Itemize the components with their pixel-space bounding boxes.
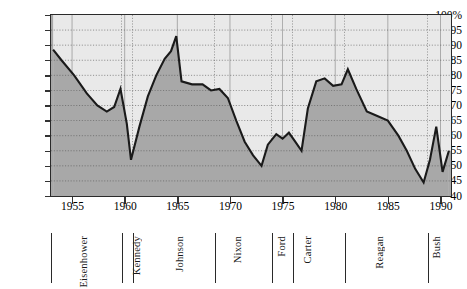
president-label: Reagan bbox=[374, 236, 385, 269]
president-separator bbox=[428, 233, 429, 283]
x-tick-label: 1990 bbox=[411, 200, 467, 212]
plot-area bbox=[50, 14, 452, 197]
x-tick-label: 1970 bbox=[200, 200, 260, 212]
x-tick-label: 1975 bbox=[253, 200, 313, 212]
president-separator bbox=[215, 233, 216, 283]
president-separator bbox=[345, 233, 346, 283]
president-separator bbox=[293, 233, 294, 283]
president-label: Ford bbox=[276, 236, 287, 257]
president-separator bbox=[133, 233, 134, 283]
president-label: Nixon bbox=[232, 236, 243, 263]
president-label: Johnson bbox=[174, 236, 185, 272]
x-tick-label: 1965 bbox=[148, 200, 208, 212]
president-separator bbox=[272, 233, 273, 283]
president-separator bbox=[122, 233, 123, 283]
x-tick-label: 1980 bbox=[306, 200, 366, 212]
president-separator bbox=[51, 233, 52, 283]
president-label: Eisenhower bbox=[78, 236, 89, 288]
x-tick-label: 1985 bbox=[358, 200, 418, 212]
president-label: Bush bbox=[431, 236, 442, 258]
x-tick-label: 1960 bbox=[95, 200, 155, 212]
approval-area-chart bbox=[51, 15, 451, 196]
x-tick-label: 1955 bbox=[43, 200, 103, 212]
president-label: Carter bbox=[302, 236, 313, 263]
